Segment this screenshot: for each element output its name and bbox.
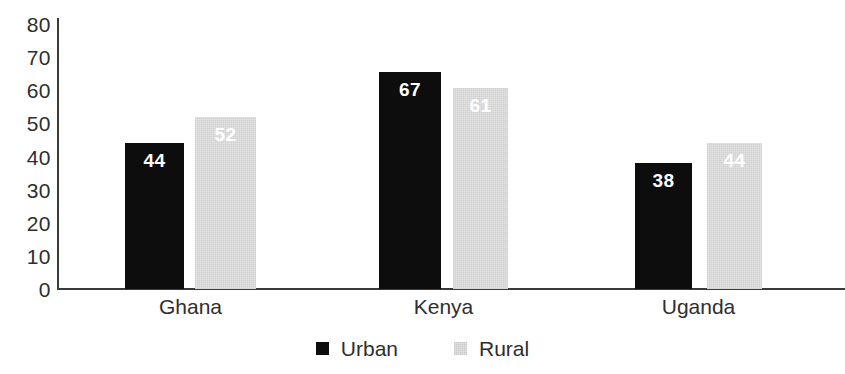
bar-uganda-urban[interactable]: 38: [635, 163, 692, 289]
bar-chart: 80 70 60 50 40 30 20 10 0 44 52 67 61: [0, 0, 845, 374]
bar-kenya-urban[interactable]: 67: [379, 72, 441, 289]
bar-group-uganda: 38 44: [635, 18, 762, 289]
y-tick-60: 60: [5, 80, 51, 101]
y-tick-20: 20: [5, 213, 51, 234]
bar-value-kenya-urban: 67: [379, 79, 441, 101]
legend-swatch-rural-icon: [454, 342, 467, 355]
y-tick-80: 80: [5, 14, 51, 35]
bar-value-ghana-rural: 52: [195, 124, 256, 146]
bar-value-ghana-urban: 44: [125, 150, 184, 172]
bar-group-kenya: 67 61: [379, 18, 508, 289]
x-category-label-kenya: Kenya: [379, 296, 508, 318]
bar-value-uganda-urban: 38: [635, 170, 692, 192]
legend-item-urban[interactable]: Urban: [316, 338, 398, 359]
legend-label-rural: Rural: [479, 338, 529, 359]
y-tick-30: 30: [5, 180, 51, 201]
x-category-label-ghana: Ghana: [125, 296, 256, 318]
y-tick-50: 50: [5, 113, 51, 134]
bar-group-ghana: 44 52: [125, 18, 256, 289]
y-tick-70: 70: [5, 47, 51, 68]
y-tick-10: 10: [5, 246, 51, 267]
y-tick-0: 0: [5, 279, 51, 300]
x-category-label-uganda: Uganda: [635, 296, 762, 318]
bar-uganda-rural[interactable]: 44: [707, 143, 762, 289]
chart-legend: Urban Rural: [0, 338, 845, 359]
plot-area: 44 52 67 61 38 44: [57, 18, 845, 289]
bar-ghana-rural[interactable]: 52: [195, 117, 256, 289]
y-axis-tick-labels: 80 70 60 50 40 30 20 10 0: [0, 0, 51, 374]
bar-value-kenya-rural: 61: [453, 95, 508, 117]
y-tick-40: 40: [5, 147, 51, 168]
bar-value-uganda-rural: 44: [707, 150, 762, 172]
legend-label-urban: Urban: [341, 338, 398, 359]
legend-item-rural[interactable]: Rural: [454, 338, 529, 359]
legend-swatch-urban-icon: [316, 342, 329, 355]
bar-ghana-urban[interactable]: 44: [125, 143, 184, 289]
bar-kenya-rural[interactable]: 61: [453, 88, 508, 289]
